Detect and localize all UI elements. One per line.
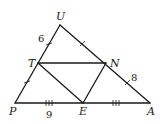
segment-NE xyxy=(83,63,106,103)
label-A: A xyxy=(146,105,155,118)
label-U: U xyxy=(56,10,66,23)
geometry-diagram: U T N P E A 6 8 9 xyxy=(0,0,160,124)
label-P: P xyxy=(8,105,17,118)
measure-PE: 9 xyxy=(46,109,52,120)
segment-TE xyxy=(38,63,83,103)
label-E: E xyxy=(78,105,87,118)
measure-NA: 8 xyxy=(131,72,137,83)
measure-UT: 6 xyxy=(38,33,44,44)
label-N: N xyxy=(109,57,120,70)
